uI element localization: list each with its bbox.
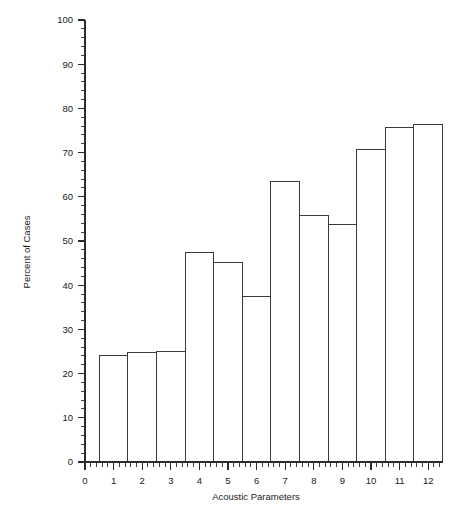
- x-tick-label: 5: [225, 475, 230, 486]
- x-tick-label: 1: [111, 475, 116, 486]
- x-tick-label: 0: [82, 475, 87, 486]
- x-tick-label: 12: [423, 475, 434, 486]
- x-tick-label: 8: [311, 475, 316, 486]
- y-tick-label: 50: [62, 235, 73, 246]
- y-tick-label: 70: [62, 147, 73, 158]
- x-tick-label: 9: [340, 475, 345, 486]
- y-tick-label: 0: [68, 456, 73, 467]
- x-tick-label: 6: [254, 475, 259, 486]
- chart-container: 0102030405060708090100 0123456789101112 …: [0, 0, 454, 521]
- x-tick-label: 2: [140, 475, 145, 486]
- x-tick-label: 4: [197, 475, 202, 486]
- y-axis-title: Percent of Cases: [21, 215, 32, 288]
- x-axis-title: Acoustic Parameters: [212, 491, 300, 502]
- y-tick-label: 30: [62, 324, 73, 335]
- y-tick-label: 100: [57, 14, 73, 25]
- chart-background: [0, 0, 454, 521]
- x-tick-label: 3: [168, 475, 173, 486]
- y-tick-label: 80: [62, 103, 73, 114]
- y-tick-label: 90: [62, 59, 73, 70]
- bar-chart: 0102030405060708090100 0123456789101112 …: [0, 0, 454, 521]
- y-tick-label: 20: [62, 368, 73, 379]
- y-tick-label: 10: [62, 412, 73, 423]
- y-tick-label: 40: [62, 280, 73, 291]
- x-tick-label: 7: [283, 475, 288, 486]
- y-tick-label: 60: [62, 191, 73, 202]
- x-tick-label: 11: [395, 475, 405, 486]
- x-tick-label: 10: [366, 475, 377, 486]
